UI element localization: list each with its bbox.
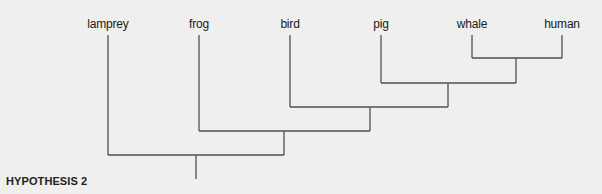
cladogram-tree bbox=[0, 0, 602, 194]
cladogram-figure: lamprey frog bird pig whale human HYPOTH… bbox=[0, 0, 602, 194]
hypothesis-caption: HYPOTHESIS 2 bbox=[6, 175, 87, 187]
